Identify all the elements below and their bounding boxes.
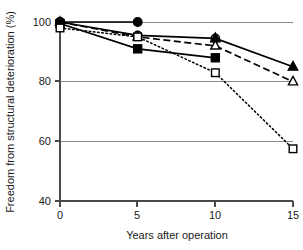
y-tick-label-100: 100 [33, 16, 51, 28]
x-tickmarks [60, 201, 293, 207]
y-tick-label-60: 60 [39, 135, 51, 147]
chart-container: 100 80 60 40 0 5 10 15 Years after opera… [0, 0, 303, 250]
datapoint-open-square-series-x5 [134, 33, 142, 41]
x-axis-title: Years after operation [126, 229, 228, 241]
datapoint-open-square-series-x0 [56, 24, 64, 32]
series-line-open-triangle-series [60, 22, 293, 82]
gridlines [60, 22, 293, 201]
y-tick-label-80: 80 [39, 75, 51, 87]
axis-lines [60, 22, 293, 201]
x-tick-labels: 0 5 10 15 [57, 209, 299, 221]
x-tick-label-15: 15 [287, 209, 299, 221]
line-chart: 100 80 60 40 0 5 10 15 Years after opera… [0, 0, 303, 250]
y-axis-title: Freedom from structural deterioration (%… [4, 11, 16, 213]
x-tick-label-0: 0 [57, 209, 63, 221]
series-line-filled-triangle-series [215, 38, 293, 66]
x-tick-label-10: 10 [209, 209, 221, 221]
series-lines-group [60, 22, 293, 149]
y-tickmarks [55, 22, 60, 201]
datapoint-open-square-series-x15 [289, 145, 297, 153]
series-line-open-square-series [60, 28, 293, 149]
y-tick-label-40: 40 [39, 195, 51, 207]
datapoint-open-square-series-x10 [212, 69, 220, 77]
datapoint-filled-square-series-x10 [211, 54, 219, 62]
y-tick-labels: 100 80 60 40 [33, 16, 51, 207]
datapoint-filled-square-series-x5 [134, 45, 142, 53]
datapoint-filled-circle-series-x5 [133, 18, 142, 27]
x-tick-label-5: 5 [134, 209, 140, 221]
